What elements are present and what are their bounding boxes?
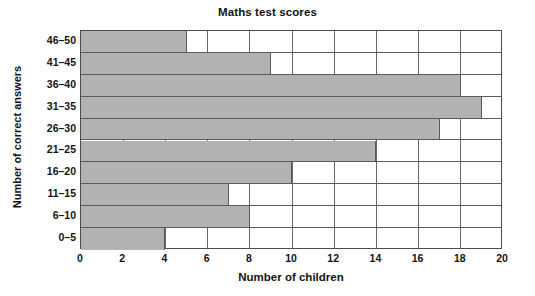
bar	[81, 31, 187, 52]
y-tick-label: 0–5	[14, 231, 76, 243]
x-tick-label: 20	[487, 252, 517, 264]
y-tick-label: 6–10	[14, 209, 76, 221]
plot-area	[80, 30, 502, 249]
y-axis-tick-labels: 0–56–1011–1516–2021–2526–3031–3536–4041–…	[8, 30, 76, 249]
bar-row	[81, 184, 501, 206]
maths-test-scores-chart: Maths test scores Number of correct answ…	[0, 0, 535, 296]
bar-row	[81, 75, 501, 97]
bar	[81, 228, 165, 250]
y-tick-label: 31–35	[14, 100, 76, 112]
bar	[81, 53, 271, 74]
y-tick-label: 36–40	[14, 78, 76, 90]
bar-row	[81, 97, 501, 119]
bar	[81, 162, 292, 183]
bar-row	[81, 162, 501, 184]
chart-title: Maths test scores	[0, 6, 535, 18]
bar	[81, 206, 250, 227]
y-tick-label: 11–15	[14, 187, 76, 199]
bar-row	[81, 206, 501, 228]
x-tick-label: 4	[149, 252, 179, 264]
x-tick-label: 16	[403, 252, 433, 264]
bar-row	[81, 53, 501, 75]
x-axis-tick-labels: 02468101214161820	[80, 252, 502, 268]
x-axis-title: Number of children	[80, 271, 502, 283]
y-tick-label: 46–50	[14, 34, 76, 46]
bars-layer	[81, 31, 501, 248]
x-tick-label: 8	[234, 252, 264, 264]
bar-row	[81, 119, 501, 141]
y-tick-label: 21–25	[14, 143, 76, 155]
y-tick-label: 16–20	[14, 165, 76, 177]
x-tick-label: 14	[360, 252, 390, 264]
bar	[81, 97, 482, 118]
bar	[81, 184, 229, 205]
x-tick-label: 12	[318, 252, 348, 264]
y-tick-label: 26–30	[14, 122, 76, 134]
x-tick-label: 6	[192, 252, 222, 264]
x-tick-label: 2	[107, 252, 137, 264]
x-tick-label: 18	[445, 252, 475, 264]
bar-row	[81, 31, 501, 53]
bar-row	[81, 228, 501, 250]
y-tick-label: 41–45	[14, 56, 76, 68]
bar	[81, 141, 376, 162]
bar	[81, 119, 440, 140]
bar	[81, 75, 461, 96]
bar-row	[81, 141, 501, 163]
x-tick-label: 0	[65, 252, 95, 264]
x-tick-label: 10	[276, 252, 306, 264]
